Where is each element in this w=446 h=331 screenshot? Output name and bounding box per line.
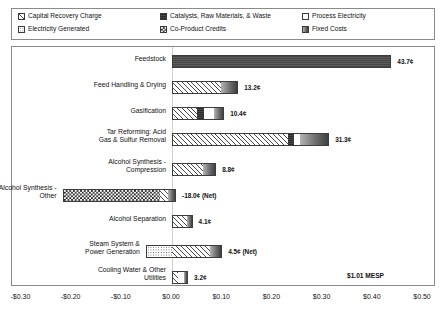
x-axis-tick-label: $0.00: [162, 293, 180, 300]
chart-root: Capital Recovery ChargeCatalysts, Raw Ma…: [0, 0, 446, 331]
legend-swatch-icon: [302, 26, 309, 33]
bar-value-label: 43.7¢: [397, 55, 413, 68]
bar-segment[interactable]: [173, 82, 221, 93]
legend-item-label: Process Electricity: [312, 12, 366, 20]
bar-segment[interactable]: [300, 134, 328, 145]
bar-value-label: 4.1¢: [199, 215, 211, 228]
bar-segment[interactable]: [197, 108, 204, 119]
bar-value-label: 10.4¢: [230, 107, 246, 120]
bar-segment[interactable]: [204, 108, 215, 119]
chart-bar-row: Alcohol Synthesis - Compression8.8¢: [12, 157, 434, 183]
stacked-bar[interactable]: [63, 189, 176, 202]
bar-segment[interactable]: [187, 216, 192, 227]
bar-segment[interactable]: [221, 82, 238, 93]
x-axis-tick-label: $0.10: [212, 293, 230, 300]
bar-category-label: Feedstock: [16, 55, 166, 63]
x-axis-tick-label: -$0.20: [61, 293, 81, 300]
stacked-bar[interactable]: [172, 215, 193, 228]
bar-segment[interactable]: [173, 134, 288, 145]
legend-item[interactable]: Electricity Generated: [18, 25, 89, 33]
legend-swatch-icon: [160, 13, 167, 20]
bar-value-label: -18.0¢ (Net): [182, 189, 216, 202]
chart-bar-row: Gasification10.4¢: [12, 101, 434, 127]
legend-item[interactable]: Fixed Costs: [302, 25, 347, 33]
legend-swatch-icon: [302, 13, 309, 20]
legend-item[interactable]: Co-Product Credits: [160, 25, 226, 33]
bar-category-label: Cooling Water & Other Utilities: [16, 266, 166, 283]
chart-bar-row: Alcohol Synthesis - Other-18.0¢ (Net): [12, 183, 434, 209]
x-axis: -$0.30-$0.20-$0.10$0.00$0.10$0.20$0.30$0…: [0, 293, 446, 309]
mesp-total-label: $1.01 MESP: [347, 272, 384, 279]
bar-segment[interactable]: [173, 216, 187, 227]
bar-segment[interactable]: [173, 164, 203, 175]
stacked-bar[interactable]: [146, 245, 222, 258]
chart-bar-row: Tar Reforming: Acid Gas & Sulfur Removal…: [12, 127, 434, 153]
chart-bar-row: Steam System & Power Generation4.5¢ (Net…: [12, 239, 434, 265]
bar-value-label: 4.5¢ (Net): [228, 245, 257, 258]
plot-area: Feedstock43.7¢Feed Handling & Drying13.2…: [11, 46, 435, 286]
bar-segment[interactable]: [214, 108, 223, 119]
stacked-bar[interactable]: [172, 271, 188, 284]
bar-category-label: Steam System & Power Generation: [0, 240, 140, 257]
legend-swatch-icon: [18, 26, 25, 33]
bar-category-label: Alcohol Separation: [16, 215, 166, 223]
bar-category-label: Alcohol Synthesis - Compression: [16, 158, 166, 175]
bar-segment[interactable]: [203, 164, 215, 175]
chart-bar-row: Alcohol Separation4.1¢: [12, 209, 434, 235]
chart-legend: Capital Recovery ChargeCatalysts, Raw Ma…: [11, 8, 435, 40]
bar-value-label: 13.2¢: [244, 81, 260, 94]
legend-item-label: Electricity Generated: [28, 25, 89, 33]
x-axis-tick-label: $0.20: [263, 293, 281, 300]
bar-category-label: Gasification: [16, 107, 166, 115]
bar-value-label: 3.2¢: [194, 271, 206, 284]
legend-item[interactable]: Process Electricity: [302, 12, 366, 20]
bar-segment[interactable]: [173, 108, 197, 119]
bar-segment[interactable]: [210, 246, 221, 257]
chart-bar-row: Feed Handling & Drying13.2¢: [12, 75, 434, 101]
bar-category-label: Alcohol Synthesis - Other: [0, 184, 57, 201]
stacked-bar[interactable]: [172, 163, 216, 176]
bar-segment[interactable]: [64, 190, 160, 201]
x-axis-tick-label: -$0.10: [111, 293, 131, 300]
bar-segment[interactable]: [160, 190, 168, 201]
x-axis-tick-label: $0.40: [363, 293, 381, 300]
stacked-bar[interactable]: [172, 55, 391, 68]
bar-segment[interactable]: [147, 246, 172, 257]
legend-item-label: Co-Product Credits: [170, 25, 226, 33]
bar-category-label: Feed Handling & Drying: [16, 81, 166, 89]
legend-item-label: Capital Recovery Charge: [28, 12, 102, 20]
bar-segment[interactable]: [184, 272, 188, 283]
legend-swatch-icon: [160, 26, 167, 33]
stacked-bar[interactable]: [172, 81, 238, 94]
stacked-bar[interactable]: [172, 107, 224, 120]
bar-segment[interactable]: [168, 190, 175, 201]
legend-item-label: Fixed Costs: [312, 25, 347, 33]
bar-value-label: 31.3¢: [335, 133, 351, 146]
x-axis-tick-label: $0.50: [413, 293, 431, 300]
bar-segment[interactable]: [173, 56, 390, 67]
x-axis-tick-label: $0.30: [313, 293, 331, 300]
chart-bar-row: Feedstock43.7¢: [12, 49, 434, 75]
legend-swatch-icon: [18, 13, 25, 20]
bar-segment[interactable]: [172, 246, 210, 257]
x-axis-tick-label: -$0.30: [10, 293, 30, 300]
legend-item[interactable]: Catalysts, Raw Materials, & Waste: [160, 12, 271, 20]
bar-category-label: Tar Reforming: Acid Gas & Sulfur Removal: [16, 128, 166, 145]
legend-item[interactable]: Capital Recovery Charge: [18, 12, 102, 20]
bar-value-label: 8.8¢: [222, 163, 234, 176]
stacked-bar[interactable]: [172, 133, 329, 146]
legend-item-label: Catalysts, Raw Materials, & Waste: [170, 12, 271, 20]
